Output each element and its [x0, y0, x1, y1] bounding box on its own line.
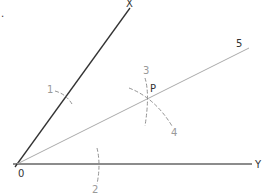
corner-mark: .	[1, 8, 4, 19]
label-p: P	[150, 83, 156, 94]
label-origin: 0	[18, 168, 24, 179]
label-bisector-5: 5	[236, 38, 242, 49]
label-x: X	[126, 0, 133, 9]
angle-bisector-diagram: . X Y 0 5 P 1 2 3 4	[0, 0, 266, 196]
line-ox	[15, 8, 130, 167]
arc-2	[97, 148, 99, 184]
label-arc-2: 2	[92, 184, 98, 195]
label-arc-1: 1	[47, 84, 53, 95]
label-arc-4: 4	[171, 127, 177, 138]
arc-1	[55, 91, 72, 104]
arc-3	[145, 78, 148, 126]
label-arc-3: 3	[143, 65, 149, 76]
label-y: Y	[254, 159, 262, 170]
bisector-line	[17, 48, 249, 164]
